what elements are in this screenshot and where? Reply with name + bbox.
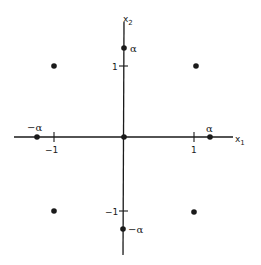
- alpha-label-y-pos: α: [130, 43, 137, 54]
- point-axial-x-pos: [207, 134, 213, 140]
- point-center: [121, 134, 127, 140]
- point-corner-bottom-right: [191, 209, 197, 215]
- alpha-label-x-neg: −α: [27, 122, 42, 133]
- x2-tick-label-pos1: 1: [112, 62, 118, 72]
- central-composite-design-diagram: x2 x1 −1 1 1 −1 α −α α −α: [0, 0, 261, 265]
- point-corner-top-right: [193, 63, 199, 69]
- x1-tick-label-pos1: 1: [191, 145, 197, 155]
- point-corner-bottom-left: [51, 208, 57, 214]
- x2-tick-label-neg1: −1: [105, 207, 118, 217]
- x1-tick-label-neg1: −1: [45, 145, 58, 155]
- point-axial-x-neg: [34, 134, 40, 140]
- alpha-label-x-pos: α: [206, 123, 213, 134]
- point-axial-y-neg: [120, 226, 126, 232]
- point-axial-y-pos: [121, 45, 127, 51]
- alpha-label-y-neg: −α: [128, 224, 143, 235]
- point-corner-top-left: [51, 63, 57, 69]
- x1-axis-label: x1: [235, 134, 245, 147]
